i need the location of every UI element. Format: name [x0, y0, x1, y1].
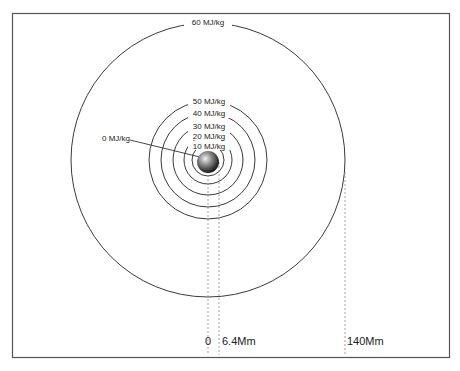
- ring-label-50: 50 MJ/kg: [193, 97, 225, 106]
- ring-label-20: 20 MJ/kg: [193, 132, 225, 141]
- ring-label-40: 40 MJ/kg: [193, 109, 225, 118]
- ring-label-30: 30 MJ/kg: [193, 122, 225, 131]
- earth-sphere: [197, 151, 219, 173]
- surface-label: 0 MJ/kg: [102, 134, 130, 143]
- distance-label-6.4: 6.4Mm: [222, 335, 256, 347]
- potential-energy-diagram: 60 MJ/kg 50 MJ/kg 40 MJ/kg 30 MJ/kg 20 M…: [0, 0, 460, 371]
- ring-label-60: 60 MJ/kg: [192, 18, 224, 27]
- ring-label-10: 10 MJ/kg: [193, 142, 225, 151]
- distance-label-140: 140Mm: [347, 335, 384, 347]
- diagram-frame: [13, 14, 450, 358]
- distance-label-0: 0: [205, 335, 211, 347]
